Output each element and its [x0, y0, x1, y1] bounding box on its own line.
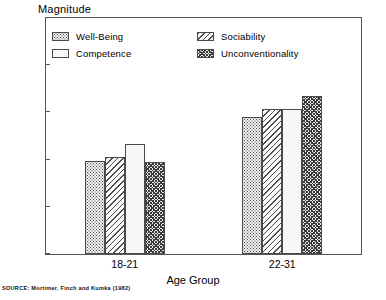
- x-axis-tick-label: 22-31: [269, 258, 296, 270]
- bar-chart-figure: Magnitude 00.20.40.60.81 18-2122-31 Age …: [0, 0, 386, 300]
- legend-item-sociability: Sociability: [197, 31, 342, 42]
- legend-swatch-sociability-icon: [197, 32, 214, 41]
- bar-competence: [125, 144, 145, 254]
- legend-swatch-well-being-icon: [52, 32, 69, 41]
- legend-item-well-being: Well-Being: [52, 31, 197, 42]
- legend-item-unconventionality: Unconventionality: [197, 48, 342, 59]
- legend-label-well-being: Well-Being: [76, 31, 123, 42]
- legend-swatch-unconventionality-icon: [197, 49, 214, 58]
- x-axis-tick-label: 18-21: [111, 258, 138, 270]
- bar-well-being: [242, 117, 262, 254]
- bar-sociability: [105, 157, 125, 254]
- legend-item-competence: Competence: [52, 48, 197, 59]
- bar-competence: [282, 109, 302, 254]
- legend-label-unconventionality: Unconventionality: [221, 48, 299, 59]
- legend-label-competence: Competence: [76, 48, 131, 59]
- legend-swatch-competence-icon: [52, 49, 69, 58]
- bar-sociability: [262, 109, 282, 254]
- y-axis-label: Magnitude: [38, 3, 91, 15]
- legend: Well-Being Sociability Competence Unconv…: [52, 30, 342, 64]
- source-note: SOURCE: Mortimer, Finch and Kumka (1982): [2, 285, 130, 291]
- bar-well-being: [85, 161, 105, 254]
- bar-unconventionality: [145, 162, 165, 254]
- bar-unconventionality: [302, 96, 322, 254]
- legend-label-sociability: Sociability: [221, 31, 265, 42]
- legend-row: Well-Being Sociability: [52, 30, 342, 43]
- legend-row: Competence Unconventionality: [52, 47, 342, 60]
